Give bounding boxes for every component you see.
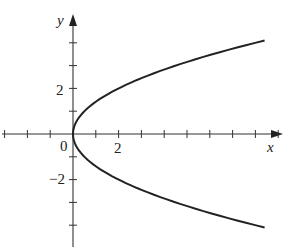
origin-label: 0 xyxy=(60,138,68,154)
parabola-chart: y x 0 2 2 −2 xyxy=(0,0,285,247)
y-axis-label: y xyxy=(55,12,64,28)
x-tick-label-2: 2 xyxy=(114,140,122,156)
x-axis-arrow-icon xyxy=(271,130,283,138)
y-tick-label-neg-2: −2 xyxy=(49,171,65,187)
y-axis-arrow-icon xyxy=(69,14,77,26)
x-axis-label: x xyxy=(266,139,274,155)
y-tick-label-2: 2 xyxy=(56,82,64,98)
axes xyxy=(2,22,276,247)
